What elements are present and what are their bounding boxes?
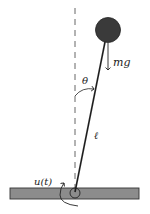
input-label: u(t): [34, 176, 52, 187]
pendulum-bob: [96, 18, 121, 43]
length-label: ℓ: [94, 130, 98, 141]
gravity-label: mg: [113, 56, 130, 69]
pendulum-rod: [75, 32, 107, 192]
inverted-pendulum-diagram: mg θ ℓ u(t): [0, 0, 150, 214]
ground-base: [10, 188, 139, 199]
angle-label: θ: [82, 75, 88, 86]
angle-arc: [75, 89, 94, 96]
